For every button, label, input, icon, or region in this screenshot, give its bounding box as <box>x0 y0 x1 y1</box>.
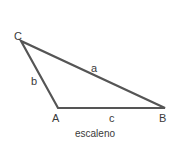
vertex-label-c: C <box>14 30 22 42</box>
side-label-b: b <box>31 75 37 87</box>
scalene-triangle-diagram: C A B a b c escaleno <box>0 0 176 148</box>
triangle-type-caption: escaleno <box>75 128 115 139</box>
side-label-c: c <box>109 112 115 124</box>
triangle-shape <box>21 41 165 108</box>
vertex-label-b: B <box>159 112 166 124</box>
vertex-label-a: A <box>52 112 60 124</box>
side-label-a: a <box>91 62 98 74</box>
